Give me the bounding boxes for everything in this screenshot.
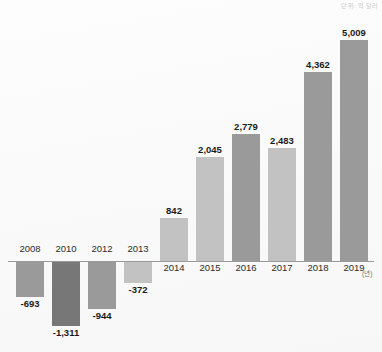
value-label-2008: -693 <box>7 298 53 309</box>
bar-2012 <box>88 262 116 309</box>
bar-2008 <box>16 262 44 297</box>
bar-2015 <box>196 157 224 261</box>
value-label-2015: 2,045 <box>187 144 233 155</box>
axis-unit-label: (년) <box>362 268 372 278</box>
bar-2017 <box>268 148 296 261</box>
value-label-2019: 5,009 <box>331 27 377 38</box>
value-label-2014: 842 <box>151 205 197 216</box>
bar-2014 <box>160 218 188 261</box>
value-label-2016: 2,779 <box>223 121 269 132</box>
bar-2018 <box>304 72 332 261</box>
plot-area: -6932008-1,3112010-9442012-3722013842201… <box>0 0 382 352</box>
value-label-2010: -1,311 <box>43 327 89 338</box>
value-label-2018: 4,362 <box>295 59 341 70</box>
value-label-2013: -372 <box>115 284 161 295</box>
year-label-2013: 2013 <box>116 243 160 254</box>
bar-2010 <box>52 262 80 326</box>
bar-2019 <box>340 40 368 261</box>
bar-chart: 단위: 억 달러 -6932008-1,3112010-9442012-3722… <box>0 0 382 352</box>
bar-2016 <box>232 134 260 261</box>
value-label-2017: 2,483 <box>259 135 305 146</box>
value-label-2012: -944 <box>79 310 125 321</box>
bar-2013 <box>124 262 152 283</box>
